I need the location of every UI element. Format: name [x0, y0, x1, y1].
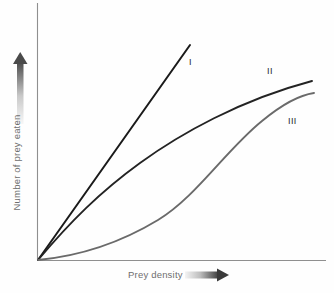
curve-type-III [38, 93, 314, 260]
curve-type-I [38, 45, 190, 260]
curve-type-II [38, 81, 312, 260]
curve-label-type-I: I [189, 57, 192, 67]
x-axis-label: Prey density [128, 269, 183, 280]
arrow-right-gradient-icon [185, 269, 229, 282]
y-axis-label: Number of prey eaten [11, 103, 22, 223]
curve-label-type-III: III [288, 116, 297, 126]
curve-label-type-II: II [267, 66, 273, 76]
response-curves-figure: Number of prey eaten Prey density I II I… [0, 0, 334, 293]
plot-area [0, 0, 334, 293]
